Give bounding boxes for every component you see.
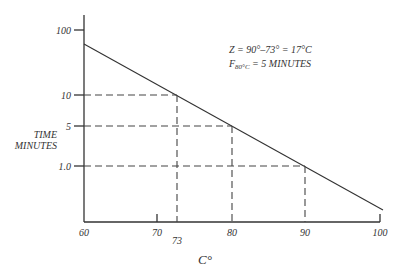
x-tick-label-90: 90: [300, 227, 310, 238]
y-tick-label-5: 5: [66, 121, 71, 132]
x-tick-label-100: 100: [373, 227, 388, 238]
chart: 100 10 5 1.0 TIME MINUTES 60 70 73 80 90…: [0, 0, 407, 275]
x-tick-label-70: 70: [152, 227, 162, 238]
annotation-z: Z = 90°–73° = 17°C: [229, 44, 312, 55]
y-tick-label-1: 1.0: [59, 161, 72, 172]
y-axis-title-line1: TIME: [34, 129, 57, 140]
x-tick-label-60: 60: [79, 227, 89, 238]
x-tick-label-80: 80: [227, 227, 237, 238]
x-tick-label-73: 73: [172, 235, 182, 246]
y-tick-label-10: 10: [61, 90, 71, 101]
y-axis-title-line2: MINUTES: [14, 140, 57, 151]
annotation-f-subscript: 80°C: [235, 63, 250, 71]
annotation-f: F80°C = 5 MINUTES: [228, 58, 311, 71]
annotation-f-suffix: = 5 MINUTES: [250, 58, 311, 69]
y-tick-label-100: 100: [56, 25, 71, 36]
x-axis-title: C°: [198, 252, 212, 267]
